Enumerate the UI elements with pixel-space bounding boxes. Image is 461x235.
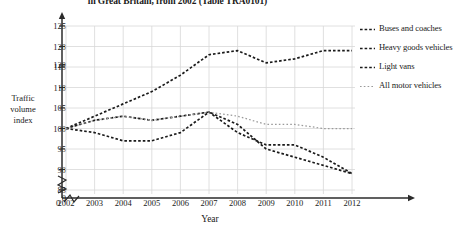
legend-label: Light vans	[379, 61, 415, 71]
x-axis-arrowhead	[408, 195, 415, 201]
legend-item: Heavy goods vehicles	[360, 37, 461, 56]
legend-item: All motor vehicles	[360, 75, 461, 94]
legend-swatch-icon	[360, 28, 375, 30]
y-axis-arrowhead	[59, 12, 65, 19]
legend-label: Buses and coaches	[379, 23, 442, 33]
legend-label: Heavy goods vehicles	[379, 42, 452, 52]
x-axis-break-symbol	[64, 195, 79, 202]
legend-label: All motor vehicles	[379, 80, 441, 90]
chart-legend: Buses and coachesHeavy goods vehiclesLig…	[360, 18, 461, 94]
legend-item: Buses and coaches	[360, 18, 461, 37]
legend-item: Light vans	[360, 56, 461, 75]
legend-swatch-icon	[360, 66, 375, 68]
legend-swatch-icon	[360, 85, 375, 87]
legend-swatch-icon	[360, 47, 375, 49]
traffic-volume-index-chart: in Great Britain, from 2002 (Table TRA01…	[0, 0, 461, 235]
